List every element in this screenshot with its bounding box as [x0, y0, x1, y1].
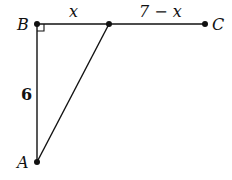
label-a: A [15, 153, 29, 172]
label-c: C [212, 15, 224, 34]
label-ab-length: 6 [21, 85, 32, 104]
label-dc-length: 7 − x [139, 2, 182, 21]
point-c [202, 21, 208, 27]
point-d [106, 21, 112, 27]
label-b: B [16, 15, 29, 34]
geometry-diagram: B C A x 7 − x 6 [0, 0, 232, 180]
point-b [34, 21, 40, 27]
label-bd-length: x [69, 2, 78, 21]
point-a [34, 159, 40, 165]
segment-ad [37, 24, 109, 162]
